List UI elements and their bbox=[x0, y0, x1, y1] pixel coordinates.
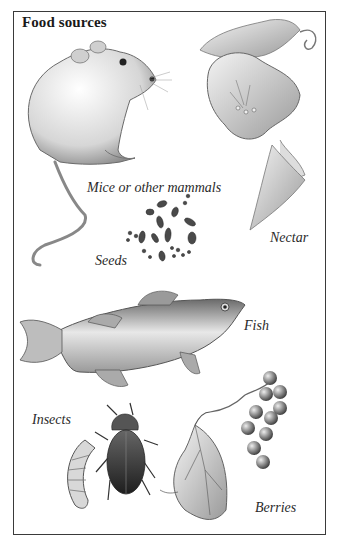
label-berries: Berries bbox=[255, 500, 296, 516]
grub-illustration bbox=[68, 440, 95, 508]
label-nectar: Nectar bbox=[270, 230, 308, 246]
food-sources-artwork bbox=[0, 0, 338, 546]
berries-illustration bbox=[210, 371, 287, 469]
label-seeds: Seeds bbox=[95, 253, 127, 269]
flower-illustration bbox=[200, 19, 316, 230]
fish-illustration bbox=[20, 291, 245, 386]
label-fish: Fish bbox=[244, 318, 269, 334]
label-insects: Insects bbox=[32, 412, 71, 428]
mouse-illustration bbox=[28, 41, 172, 265]
leaf-illustration bbox=[160, 412, 227, 519]
seeds-illustration bbox=[126, 194, 196, 261]
beetle-illustration bbox=[95, 403, 158, 500]
label-mice-or-other-mammals: Mice or other mammals bbox=[87, 180, 221, 196]
